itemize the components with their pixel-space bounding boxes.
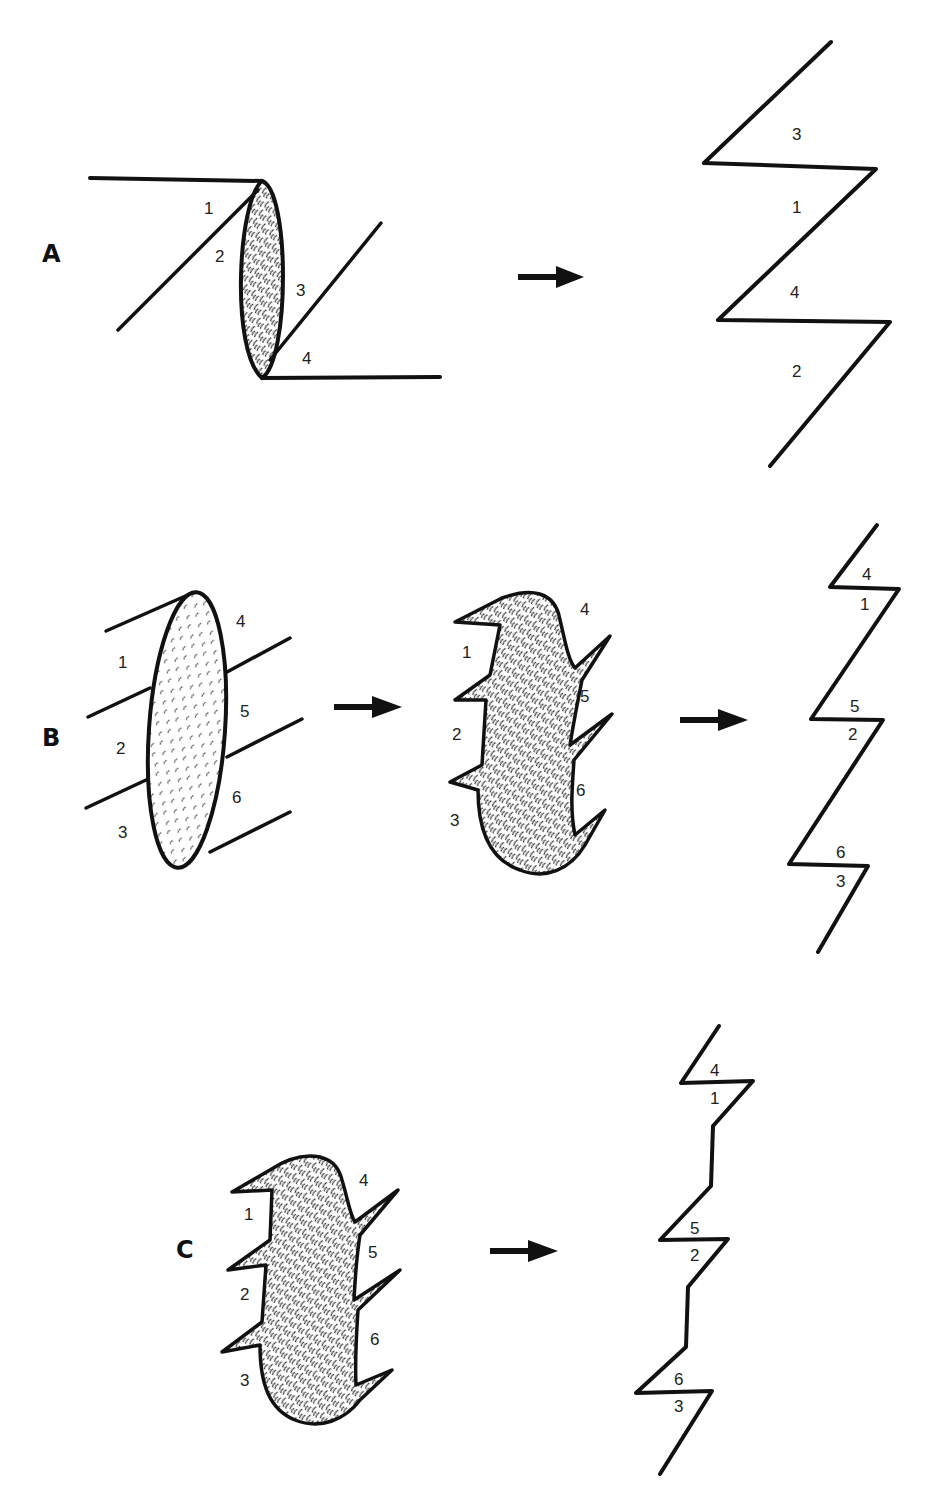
line-segment	[227, 719, 302, 757]
segment-label: 4	[236, 612, 245, 631]
segment-label: 4	[710, 1061, 719, 1080]
line-segment	[86, 780, 146, 808]
segment-label: 6	[576, 781, 585, 800]
segment-label: 6	[674, 1370, 683, 1389]
segment-label: 3	[450, 811, 459, 830]
panel-a-before: 1 2 3 4	[90, 178, 440, 378]
segment-label: 2	[792, 362, 801, 381]
panel-c-after: 4 1 5 2 6 3	[636, 1026, 753, 1474]
zigzag-line	[704, 42, 890, 466]
segment-label: 5	[580, 687, 589, 706]
segment-label: 2	[848, 725, 857, 744]
right-arrow-icon	[680, 709, 748, 731]
panel-b-stage2: 1 2 3 4 5 6	[450, 593, 612, 874]
segment-label: 3	[240, 1371, 249, 1390]
line-segment	[210, 812, 290, 852]
right-arrow-icon	[334, 696, 402, 718]
segment-label: 4	[580, 600, 589, 619]
segment-label: 6	[836, 843, 845, 862]
segment-label: 5	[690, 1219, 699, 1238]
segment-label: 3	[296, 281, 305, 300]
segment-label: 1	[792, 198, 801, 217]
segment-label: 3	[792, 125, 801, 144]
panel-label-a: A	[42, 240, 61, 268]
deformed-fault-body	[450, 593, 612, 874]
segment-label: 4	[359, 1171, 368, 1190]
segment-label: 4	[862, 565, 871, 584]
line-segment	[118, 190, 258, 330]
segment-label: 5	[240, 702, 249, 721]
segment-label: 5	[368, 1243, 377, 1262]
segment-label: 1	[710, 1089, 719, 1108]
segment-label: 2	[690, 1246, 699, 1265]
panel-b: B 1 2 3 4 5 6 1	[42, 525, 899, 952]
panel-label-c: C	[176, 1236, 194, 1264]
panel-a-after: 3 1 4 2	[704, 42, 890, 466]
segment-label: 2	[215, 247, 224, 266]
figure-canvas: A 1 2 3 4 3 1 4 2 B	[0, 0, 942, 1504]
segment-label: 1	[462, 643, 471, 662]
segment-label: 5	[850, 697, 859, 716]
segment-label: 3	[836, 872, 845, 891]
fault-plane-ellipse	[139, 590, 234, 871]
segment-label: 1	[204, 199, 213, 218]
segment-label: 2	[240, 1285, 249, 1304]
segment-label: 4	[302, 349, 311, 368]
line-segment	[227, 638, 290, 672]
panel-label-b: B	[42, 724, 60, 752]
segment-label: 1	[118, 653, 127, 672]
segment-label: 1	[860, 595, 869, 614]
segment-label: 2	[452, 725, 461, 744]
line-segment	[262, 377, 440, 378]
segment-label: 2	[116, 739, 125, 758]
panel-b-stage1: 1 2 3 4 5 6	[86, 590, 302, 871]
segment-label: 3	[118, 823, 127, 842]
right-arrow-icon	[518, 266, 584, 288]
line-segment	[88, 688, 150, 717]
line-segment	[270, 223, 381, 360]
segment-label: 4	[790, 283, 799, 302]
panel-a: A 1 2 3 4 3 1 4 2	[42, 42, 890, 466]
panel-c-before: 1 2 3 4 5 6	[222, 1156, 400, 1424]
segment-label: 6	[232, 788, 241, 807]
line-segment	[90, 178, 262, 181]
right-arrow-icon	[490, 1240, 558, 1262]
panel-c: C 1 2 3 4 5 6 4 1 5 2 6 3	[176, 1026, 753, 1474]
fault-plane-ellipse	[241, 181, 283, 378]
segment-label: 1	[244, 1205, 253, 1224]
segment-label: 3	[674, 1397, 683, 1416]
panel-b-stage3: 4 1 5 2 6 3	[789, 525, 899, 952]
segment-label: 6	[370, 1330, 379, 1349]
